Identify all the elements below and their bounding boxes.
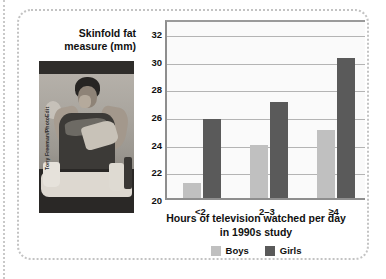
y-axis-title: Skinfold fatmeasure (mm) — [40, 27, 136, 53]
bar-girls-2 — [270, 102, 288, 198]
bar-group — [300, 22, 367, 198]
page-margin-rule — [3, 0, 5, 279]
bar-chart: 20222426283032 <22–3≥4 — [143, 20, 365, 202]
bar-group — [167, 22, 234, 198]
y-axis-tick-labels: 20222426283032 — [143, 20, 162, 200]
photo-block: Tony Freeman/PhotoEdit — [31, 61, 134, 213]
y-axis-tick-label: 32 — [142, 28, 162, 39]
bar-boys-2 — [250, 145, 268, 198]
photo-bottle — [124, 157, 132, 189]
legend-label: Boys — [226, 245, 249, 256]
plot-area: <22–3≥4 — [165, 20, 365, 200]
legend-swatch-boys — [211, 246, 221, 256]
bar-girls-1 — [203, 119, 221, 198]
chart-legend: BoysGirls — [150, 245, 362, 256]
x-axis-title: Hours of television watched per dayin 19… — [150, 212, 362, 239]
photo-wall-band — [39, 61, 134, 74]
y-axis-tick-label: 24 — [142, 139, 162, 150]
photo-credit: Tony Freeman/PhotoEdit — [44, 78, 50, 170]
y-axis-tick-label: 30 — [142, 56, 162, 67]
photograph-of-person-eating-snacks — [39, 61, 134, 213]
photo-hand — [79, 95, 91, 108]
bar-boys-1 — [183, 183, 201, 198]
y-axis-tick-label: 22 — [142, 167, 162, 178]
legend-item-boys: Boys — [211, 245, 249, 256]
y-axis-tick-label: 28 — [142, 84, 162, 95]
photo-cup-right — [109, 163, 124, 191]
bar-group — [234, 22, 301, 198]
legend-item-girls: Girls — [265, 245, 302, 256]
bar-girls-3 — [337, 58, 355, 198]
bar-boys-3 — [317, 130, 335, 198]
legend-swatch-girls — [265, 246, 275, 256]
legend-label: Girls — [280, 245, 302, 256]
y-axis-tick-label: 26 — [142, 111, 162, 122]
y-axis-tick-label: 20 — [142, 195, 162, 206]
